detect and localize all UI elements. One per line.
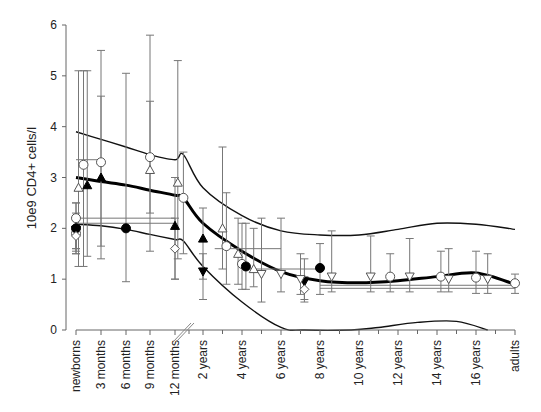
marker-open-circle	[472, 273, 481, 282]
x-tick-label: 8 years	[313, 340, 327, 379]
marker-open-circle	[511, 279, 520, 288]
x-tick-label: 2 years	[196, 340, 210, 379]
marker-open-circle	[79, 160, 88, 169]
y-axis-title: 10e9 CD4+ cells/l	[24, 127, 39, 229]
x-tick-label: 6 months	[119, 340, 133, 389]
x-tick-label: 9 months	[143, 340, 157, 389]
marker-open-circle	[436, 272, 445, 281]
x-tick-label: 12 months	[168, 340, 182, 396]
x-tick-label: 4 years	[235, 340, 249, 379]
marker-open-circle	[386, 272, 395, 281]
y-tick-label: 5	[50, 69, 57, 83]
x-tick-label: 12 years	[391, 340, 405, 386]
marker-open-triangle-down	[444, 276, 453, 284]
y-tick-label: 3	[50, 171, 57, 185]
x-tick-label: 3 months	[94, 340, 108, 389]
marker-open-circle	[179, 193, 188, 202]
y-ticks: 0123456	[50, 18, 66, 337]
marker-open-triangle-up	[218, 224, 227, 232]
marker-open-circle	[222, 242, 231, 251]
marker-open-circle	[146, 153, 155, 162]
marker-filled-circle	[241, 262, 250, 271]
axis-break-marker	[173, 323, 194, 342]
marker-filled-triangle-down	[199, 268, 208, 276]
x-tick-label: newborns	[69, 340, 83, 392]
y-tick-label: 2	[50, 221, 57, 235]
chart: 0123456 newborns3 months6 months9 months…	[0, 0, 541, 412]
marker-open-triangle-down	[483, 276, 492, 284]
marker-open-circle	[72, 214, 81, 223]
marker-filled-triangle-up	[97, 173, 106, 181]
marker-open-triangle-down	[327, 273, 336, 281]
x-tick-label: adults	[508, 340, 522, 372]
upper-limit-curve	[76, 132, 515, 236]
y-tick-label: 0	[50, 323, 57, 337]
y-tick-label: 6	[50, 18, 57, 32]
marker-filled-circle	[316, 263, 325, 272]
marker-filled-circle	[122, 224, 131, 233]
marker-open-triangle-down	[257, 270, 266, 278]
error-bars	[72, 35, 519, 302]
x-tick-label: 14 years	[430, 340, 444, 386]
marker-open-diamond	[300, 285, 309, 294]
marker-open-triangle-down	[366, 273, 375, 281]
x-ticks: newborns3 months6 months9 months12 month…	[69, 330, 522, 396]
marker-filled-triangle-up	[83, 181, 92, 189]
x-tick-label: 16 years	[469, 340, 483, 386]
y-tick-label: 1	[50, 272, 57, 286]
x-tick-label: 10 years	[352, 340, 366, 386]
marker-filled-triangle-up	[199, 234, 208, 242]
x-tick-label: 6 years	[274, 340, 288, 379]
y-tick-label: 4	[50, 120, 57, 134]
marker-open-triangle-down	[277, 270, 286, 278]
marker-open-circle	[97, 158, 106, 167]
axes	[66, 25, 515, 330]
marker-open-triangle-up	[74, 183, 83, 191]
marker-open-triangle-up	[146, 165, 155, 173]
reference-curves	[76, 132, 515, 331]
